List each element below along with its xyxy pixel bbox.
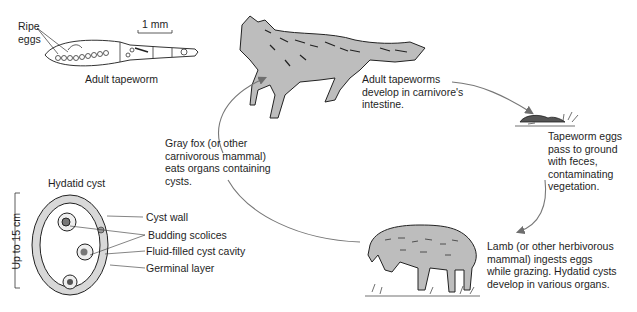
gray-fox-line2: carnivorous mammal)	[165, 150, 271, 163]
hydatid-cyst-illustration	[15, 193, 145, 295]
tapeworm-illustration	[37, 28, 198, 66]
arrow-from-lamb	[228, 180, 360, 242]
lamb-line1: Lamb (or other herbivorous	[487, 240, 617, 253]
cyst-size-label: Up to 15 cm	[10, 213, 23, 270]
hydatid-cyst-title: Hydatid cyst	[48, 177, 105, 190]
adult-tapeworm-caption: Adult tapeworm	[85, 73, 158, 86]
fox-caption-line1: Adult tapeworms	[362, 73, 463, 86]
ripe-eggs-line1: Ripe	[18, 20, 41, 33]
lamb-line4: develop in various organs.	[487, 278, 617, 291]
ripe-eggs-line2: eggs	[18, 33, 41, 46]
eggs-line1: Tapeworm eggs	[548, 130, 622, 143]
fox-caption: Adult tapeworms develop in carnivore's i…	[362, 73, 463, 111]
eggs-line4: contaminating	[548, 168, 622, 181]
gray-fox-line4: cysts.	[165, 175, 271, 188]
germinal-layer-label: Germinal layer	[146, 262, 214, 275]
arrow-to-lamb	[518, 180, 546, 232]
gray-fox-caption: Gray fox (or other carnivorous mammal) e…	[165, 137, 271, 187]
fox-caption-line3: intestine.	[362, 98, 463, 111]
fox-caption-line2: develop in carnivore's	[362, 86, 463, 99]
scale-bar-label: 1 mm	[142, 18, 168, 31]
lamb-line3: while grazing. Hydatid cysts	[487, 265, 617, 278]
gray-fox-line1: Gray fox (or other	[165, 137, 271, 150]
gray-fox-line3: eats organs containing	[165, 162, 271, 175]
eggs-line5: vegetation.	[548, 180, 622, 193]
lamb-line2: mammal) ingests eggs	[487, 253, 617, 266]
fluid-filled-cavity-label: Fluid-filled cyst cavity	[146, 245, 245, 258]
budding-scolices-label: Budding scolices	[148, 229, 227, 242]
feces-illustration	[515, 112, 578, 126]
arrow-to-eggs	[452, 82, 532, 113]
eggs-caption: Tapeworm eggs pass to ground with feces,…	[548, 130, 622, 193]
ripe-eggs-label: Ripe eggs	[18, 20, 41, 45]
eggs-line2: pass to ground	[548, 143, 622, 156]
lamb-illustration	[365, 225, 480, 296]
eggs-line3: with feces,	[548, 155, 622, 168]
lamb-caption: Lamb (or other herbivorous mammal) inges…	[487, 240, 617, 290]
cyst-wall-label: Cyst wall	[146, 211, 188, 224]
